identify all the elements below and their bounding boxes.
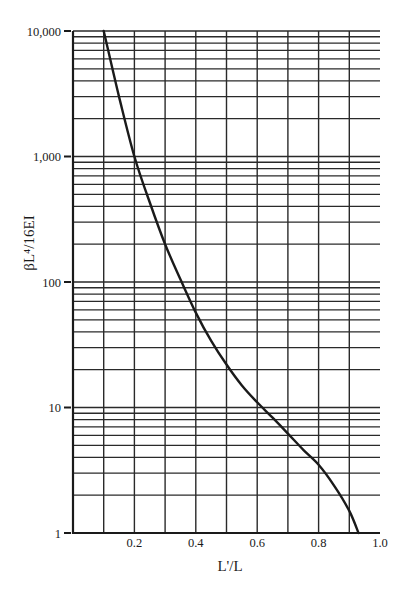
- y-tick-label: 10: [49, 401, 62, 415]
- y-axis-label: βL⁴/16EI: [21, 215, 37, 270]
- x-tick-label: 0.6: [249, 536, 265, 550]
- y-tick-label: 100: [42, 276, 61, 290]
- y-tick-label: 1: [55, 527, 61, 541]
- grid-lines: [73, 31, 380, 533]
- y-tick-label: 10,000: [27, 25, 61, 39]
- x-tick-label: 0.2: [127, 536, 143, 550]
- x-axis-ticks: 0.20.40.60.81.0: [127, 536, 388, 550]
- x-axis-label: L'/L: [217, 558, 242, 574]
- x-tick-label: 0.4: [188, 536, 204, 550]
- y-axis-ticks: 1101001,00010,000: [27, 25, 71, 541]
- x-tick-label: 0.8: [311, 536, 327, 550]
- chart: 1101001,00010,000 0.20.40.60.81.0 L'/L β…: [0, 0, 407, 594]
- y-tick-label: 1,000: [33, 150, 61, 164]
- x-tick-label: 1.0: [372, 536, 388, 550]
